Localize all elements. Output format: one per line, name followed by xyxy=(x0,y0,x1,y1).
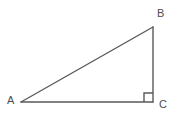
vertex-label-b: B xyxy=(157,8,164,19)
vertex-label-c: C xyxy=(159,99,167,110)
vertex-label-a: A xyxy=(7,95,14,106)
triangle-side-hypotenuse-ab xyxy=(21,27,153,102)
right-angle-marker-icon xyxy=(144,93,153,102)
geometry-figure: A B C xyxy=(0,0,188,125)
